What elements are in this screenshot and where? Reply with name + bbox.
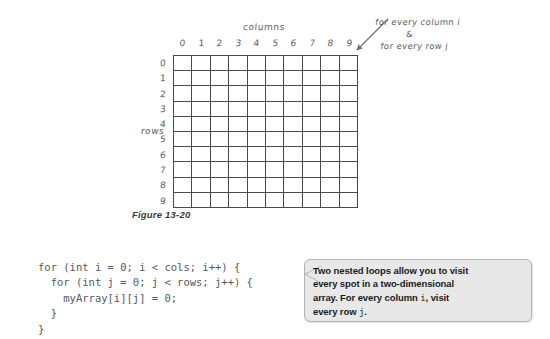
grid-cell: [229, 162, 247, 177]
grid-cell: [340, 193, 358, 208]
annotation-line-3: for every row j: [370, 40, 521, 52]
callout-line-3b: , visit: [426, 292, 450, 303]
grid-cell: [248, 162, 266, 177]
grid-cell: [266, 162, 284, 177]
annotation-line-2: &: [371, 28, 522, 40]
grid-cell: [266, 56, 284, 71]
grid-cell: [284, 147, 302, 162]
grid-cell: [248, 178, 266, 193]
grid-cell: [284, 162, 302, 177]
grid-cell: [321, 147, 339, 162]
row-index-0: 0: [155, 55, 170, 71]
grid-cell: [211, 117, 229, 132]
grid-cell: [211, 71, 229, 86]
grid-cell: [248, 102, 266, 117]
grid-cell: [284, 86, 302, 101]
grid-cell: [284, 71, 302, 86]
grid-cell: [321, 178, 339, 193]
grid-cell: [303, 147, 321, 162]
grid-cell: [303, 117, 321, 132]
annotation-line-1: for every column i: [373, 16, 524, 28]
column-index-1: 1: [191, 38, 211, 53]
grid-cell: [229, 178, 247, 193]
grid-cell: [321, 162, 339, 177]
grid-cell: [211, 86, 229, 101]
grid-cell: [321, 117, 339, 132]
grid-cell: [211, 147, 229, 162]
row-index-9: 9: [155, 192, 170, 208]
grid-cell: [340, 102, 358, 117]
callout-line-4a: every row: [313, 306, 359, 317]
grid-cell: [303, 162, 321, 177]
grid-cell: [174, 132, 192, 147]
grid-cell: [266, 102, 284, 117]
figure-caption: Figure 13-20: [132, 209, 190, 220]
row-index-3: 3: [155, 101, 170, 117]
grid-cell: [266, 193, 284, 208]
row-index-8: 8: [155, 177, 170, 193]
grid-cell: [284, 193, 302, 208]
grid-cell: [248, 193, 266, 208]
grid-cell: [321, 102, 339, 117]
grid-cell: [174, 178, 192, 193]
callout-line-4b: .: [364, 306, 367, 317]
grid-cell: [284, 178, 302, 193]
grid-cell: [192, 117, 210, 132]
grid-cell: [211, 178, 229, 193]
grid-cell: [284, 102, 302, 117]
column-index-0: 0: [172, 38, 192, 53]
row-index-6: 6: [155, 146, 170, 162]
row-index-1: 1: [155, 70, 170, 86]
grid-cell: [229, 147, 247, 162]
grid-cell: [174, 117, 192, 132]
grid-cell: [248, 86, 266, 101]
grid-cell: [303, 71, 321, 86]
grid-cell: [174, 147, 192, 162]
grid-cell: [266, 132, 284, 147]
grid-cell: [192, 56, 210, 71]
column-index-8: 8: [320, 38, 340, 53]
grid-cell: [211, 102, 229, 117]
grid-cell: [266, 71, 284, 86]
grid-cell: [284, 56, 302, 71]
grid-cell: [340, 132, 358, 147]
grid-cell: [340, 71, 358, 86]
grid-cell: [321, 132, 339, 147]
grid-cell: [340, 56, 358, 71]
grid-cell: [229, 71, 247, 86]
grid-cell: [211, 56, 229, 71]
grid-cell: [266, 147, 284, 162]
grid-cell: [229, 193, 247, 208]
column-index-ruler: 0123456789: [173, 38, 358, 52]
grid-cell: [266, 86, 284, 101]
grid-cell: [303, 56, 321, 71]
row-index-5: 5: [155, 131, 170, 147]
grid-cell: [229, 117, 247, 132]
grid-cell: [211, 193, 229, 208]
grid-cell: [321, 56, 339, 71]
figure-diagram: columns rows 0123456789 0123456789 for e…: [0, 0, 550, 232]
column-index-3: 3: [228, 38, 248, 53]
row-index-2: 2: [155, 85, 170, 101]
grid-cell: [321, 71, 339, 86]
grid-cell: [229, 86, 247, 101]
grid-cell: [174, 86, 192, 101]
grid-cell: [303, 132, 321, 147]
grid-cell: [229, 132, 247, 147]
grid-cell: [248, 56, 266, 71]
callout-line-1: Two nested loops allow you to visit: [313, 265, 468, 276]
grid-cell: [340, 162, 358, 177]
column-index-5: 5: [265, 38, 285, 53]
column-index-7: 7: [302, 38, 322, 53]
grid-cell: [248, 71, 266, 86]
grid-cell: [248, 147, 266, 162]
grid-cell: [340, 147, 358, 162]
callout-text: Two nested loops allow you to visit ever…: [313, 264, 519, 320]
grid-cell: [174, 193, 192, 208]
grid-cell: [266, 117, 284, 132]
grid-cell: [174, 102, 192, 117]
two-dimensional-array-grid: [173, 55, 358, 208]
column-index-6: 6: [283, 38, 303, 53]
grid-cell: [321, 193, 339, 208]
callout-line-3a: array. For every column: [313, 292, 420, 303]
